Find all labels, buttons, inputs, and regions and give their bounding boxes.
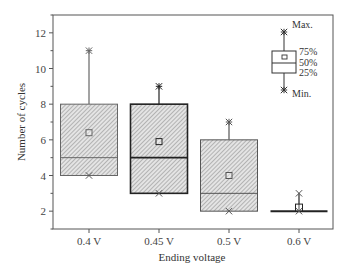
- iqr-box: [131, 104, 188, 193]
- legend: Max.75%50%25%Min.: [272, 19, 317, 99]
- mean-marker: [296, 204, 303, 211]
- x-axis: 0.4 V0.45 V0.5 V0.6 V: [77, 229, 311, 247]
- y-tick-label: 12: [35, 27, 46, 39]
- max-marker: [86, 47, 92, 53]
- y-axis: 24681012: [35, 15, 53, 229]
- box-0-6V: [271, 190, 328, 214]
- y-tick-label: 8: [41, 98, 47, 110]
- mean-marker: [226, 173, 232, 179]
- y-tick-label: 4: [41, 170, 47, 182]
- legend-mean: [282, 55, 287, 59]
- x-tick-label: 0.5 V: [217, 235, 241, 247]
- legend-label-min: Min.: [292, 88, 311, 99]
- x-tick-label: 0.45 V: [144, 235, 174, 247]
- legend-label-q1: 25%: [299, 67, 317, 78]
- legend-box: [272, 51, 296, 73]
- mean-marker: [156, 139, 162, 145]
- max-marker: [156, 83, 162, 89]
- iqr-box: [61, 104, 118, 175]
- x-tick-label: 0.6 V: [287, 235, 311, 247]
- y-tick-label: 6: [41, 134, 47, 146]
- x-tick-label: 0.4 V: [77, 235, 101, 247]
- y-tick-label: 2: [41, 205, 47, 217]
- box-plot-chart: 24681012 0.4 V0.45 V0.5 V0.6 V Max.75%50…: [0, 0, 350, 277]
- legend-label-q3: 75%: [299, 46, 317, 57]
- mean-marker: [86, 130, 92, 136]
- box-0-45V: [131, 83, 188, 196]
- y-tick-label: 10: [35, 63, 47, 75]
- x-axis-title: Ending voltage: [159, 251, 226, 263]
- legend-label-max: Max.: [292, 19, 313, 30]
- legend-max-marker: [281, 29, 287, 35]
- y-axis-title: Number of cycles: [15, 83, 27, 161]
- max-marker: [226, 119, 232, 125]
- box-0-4V: [61, 47, 118, 178]
- box-0-5V: [201, 119, 258, 215]
- legend-min-marker: [281, 87, 287, 93]
